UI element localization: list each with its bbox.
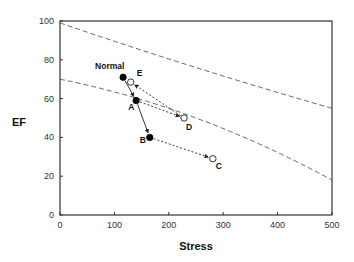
plot-area: 0100200300400500020406080100StressEFNorm…	[12, 16, 340, 252]
data-point	[181, 115, 187, 121]
y-tick-label: 40	[44, 132, 54, 142]
x-tick-label: 400	[270, 220, 285, 230]
reference-curve	[60, 79, 332, 180]
y-tick-label: 0	[49, 210, 54, 220]
y-tick-label: 60	[44, 94, 54, 104]
y-axis-label: EF	[12, 116, 26, 128]
data-point	[147, 134, 153, 140]
x-axis-label: Stress	[179, 240, 213, 252]
point-label: Normal	[95, 61, 124, 71]
x-tick-label: 100	[107, 220, 122, 230]
point-label: E	[137, 68, 143, 78]
x-tick-label: 0	[57, 220, 62, 230]
point-label: B	[140, 135, 146, 145]
transition-arrow	[154, 139, 209, 157]
y-tick-label: 20	[44, 171, 54, 181]
data-point	[120, 74, 126, 80]
y-tick-label: 80	[44, 55, 54, 65]
transition-arrow	[138, 104, 148, 132]
transition-arrow	[135, 85, 181, 116]
y-tick-label: 100	[39, 16, 54, 26]
x-tick-label: 200	[161, 220, 176, 230]
point-label: A	[128, 102, 134, 112]
point-label: D	[186, 122, 192, 132]
plot-frame	[60, 21, 332, 215]
data-point	[128, 79, 134, 85]
x-tick-label: 300	[216, 220, 231, 230]
point-label: C	[216, 161, 222, 171]
chart: 0100200300400500020406080100StressEFNorm…	[0, 0, 354, 262]
transition-arrow	[140, 102, 179, 116]
x-tick-label: 500	[324, 220, 339, 230]
